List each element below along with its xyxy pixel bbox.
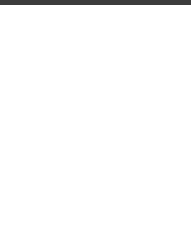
motif-grid (0, 0, 191, 241)
